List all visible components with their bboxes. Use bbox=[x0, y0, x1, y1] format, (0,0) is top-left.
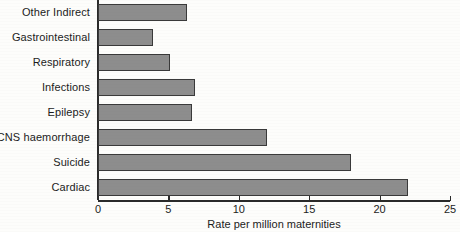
bar bbox=[98, 179, 408, 196]
category-axis-labels: Other IndirectGastrointestinalRespirator… bbox=[0, 0, 94, 200]
bar-chart-figure: Other IndirectGastrointestinalRespirator… bbox=[0, 0, 460, 232]
x-axis: Rate per million maternities 0510152025 bbox=[98, 200, 450, 232]
category-label: CNS haemorrhage bbox=[0, 129, 90, 146]
category-label: Respiratory bbox=[33, 54, 90, 71]
x-tick-label: 25 bbox=[444, 203, 456, 215]
category-label: Other Indirect bbox=[22, 4, 90, 21]
bar bbox=[98, 129, 267, 146]
x-tick-label: 20 bbox=[373, 203, 385, 215]
category-label: Gastrointestinal bbox=[12, 29, 90, 46]
x-tick-mark bbox=[380, 196, 381, 201]
x-tick-mark bbox=[98, 196, 99, 201]
bar bbox=[98, 54, 170, 71]
bar bbox=[98, 29, 153, 46]
bar bbox=[98, 4, 187, 21]
x-axis-line bbox=[98, 200, 450, 202]
category-label: Epilepsy bbox=[48, 104, 90, 121]
plot-area bbox=[98, 0, 450, 200]
category-label: Cardiac bbox=[51, 179, 90, 196]
x-tick-mark bbox=[309, 196, 310, 201]
x-tick-label: 0 bbox=[95, 203, 101, 215]
x-tick-label: 10 bbox=[233, 203, 245, 215]
category-label: Suicide bbox=[53, 154, 90, 171]
x-tick-label: 5 bbox=[165, 203, 171, 215]
x-tick-mark bbox=[239, 196, 240, 201]
bar bbox=[98, 79, 195, 96]
category-label: Infections bbox=[42, 79, 90, 96]
bar bbox=[98, 104, 192, 121]
x-tick-mark bbox=[168, 196, 169, 201]
x-axis-title: Rate per million maternities bbox=[98, 218, 450, 230]
bar bbox=[98, 154, 351, 171]
x-tick-mark bbox=[450, 196, 451, 201]
x-tick-label: 15 bbox=[303, 203, 315, 215]
